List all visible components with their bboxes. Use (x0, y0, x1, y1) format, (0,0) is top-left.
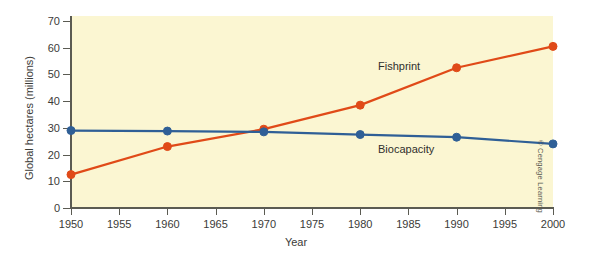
y-axis-line (70, 16, 72, 209)
x-axis-title: Year (0, 236, 592, 248)
x-tick-label: 1975 (300, 218, 324, 230)
y-tick-label: 20 (32, 149, 60, 161)
x-tick-label: 1990 (444, 218, 468, 230)
y-tick (63, 74, 70, 75)
x-tick (167, 209, 168, 215)
y-tick (63, 128, 70, 129)
x-tick-label: 1950 (59, 218, 83, 230)
y-tick-label: 10 (32, 175, 60, 187)
y-tick (63, 155, 70, 156)
y-axis-title: Global hectares (millions) (23, 33, 35, 203)
x-tick (216, 209, 217, 215)
x-tick (264, 209, 265, 215)
x-tick-label: 1965 (203, 218, 227, 230)
x-tick (408, 209, 409, 215)
y-tick (63, 101, 70, 102)
x-tick (360, 209, 361, 215)
y-tick-label: 30 (32, 122, 60, 134)
x-tick (71, 209, 72, 215)
x-tick (457, 209, 458, 215)
x-tick (505, 209, 506, 215)
y-tick (63, 181, 70, 182)
x-tick-label: 1980 (348, 218, 372, 230)
y-tick-label: 70 (32, 15, 60, 27)
x-tick-label: 1955 (107, 218, 131, 230)
y-tick-label: 60 (32, 42, 60, 54)
copyright-credit: © Cengage Learning (536, 140, 545, 240)
x-tick-label: 1960 (155, 218, 179, 230)
series-label-fishprint: Fishprint (378, 60, 420, 72)
chart-figure: 010203040506070 195019551960196519701975… (0, 0, 592, 266)
plot-area (71, 16, 553, 208)
y-tick (63, 21, 70, 22)
x-tick (553, 209, 554, 215)
y-tick (63, 48, 70, 49)
series-label-biocapacity: Biocapacity (378, 143, 434, 155)
x-tick (119, 209, 120, 215)
x-tick-label: 1985 (396, 218, 420, 230)
y-tick-label: 0 (32, 202, 60, 214)
y-tick-label: 40 (32, 95, 60, 107)
x-tick-label: 1970 (252, 218, 276, 230)
y-tick-label: 50 (32, 68, 60, 80)
y-tick (63, 208, 70, 209)
x-tick (312, 209, 313, 215)
x-tick-label: 1995 (493, 218, 517, 230)
